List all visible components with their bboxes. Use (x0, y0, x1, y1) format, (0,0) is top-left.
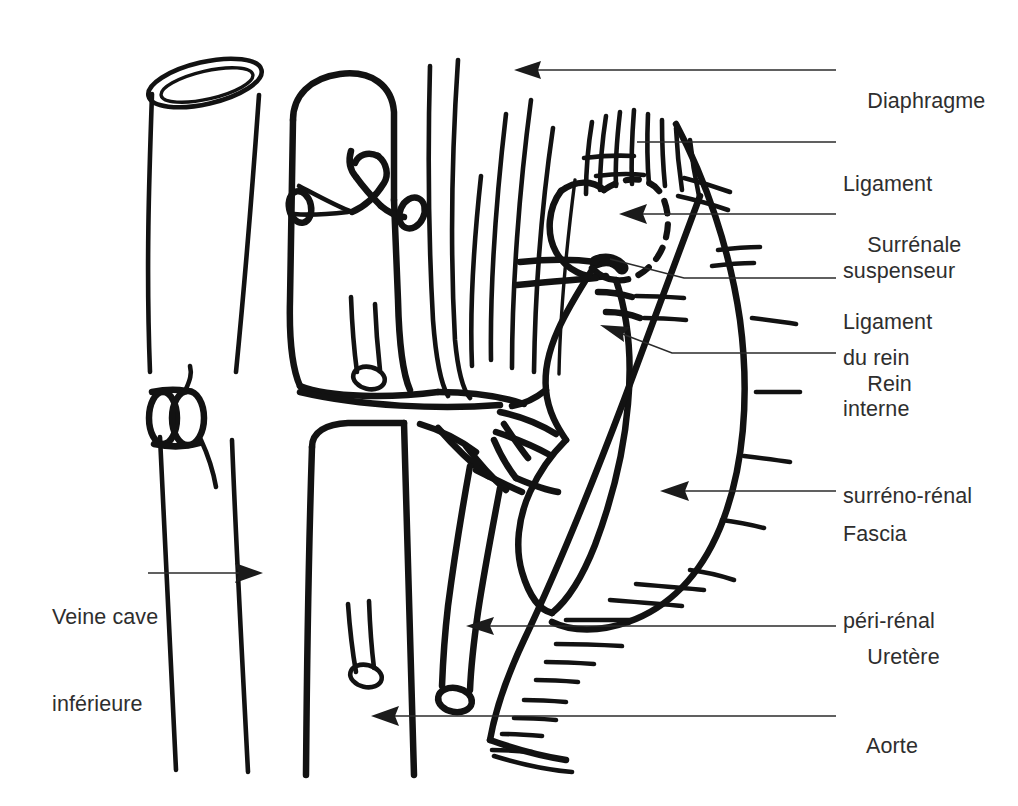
label-veine-cave-line-2: inférieure (52, 690, 158, 719)
leader-uretere (466, 617, 836, 635)
suspensory-ligament-hatching (584, 110, 699, 196)
label-uretere-line-1: Uretère (867, 645, 939, 669)
label-ligament-interne-line-1: Ligament (843, 308, 972, 337)
label-aorte: Aorte (843, 703, 918, 790)
diaphragm-fibres (300, 60, 575, 407)
label-aorte-line-1: Aorte (866, 734, 918, 758)
label-veine-cave-inferieure: Veine cave inférieure (52, 545, 158, 777)
label-diaphragme-line-1: Diaphragme (867, 89, 985, 113)
anatomy-figure: Diaphragme Ligament suspenseur du rein S… (0, 0, 1018, 806)
label-veine-cave-line-1: Veine cave (52, 603, 158, 632)
leader-fascia-peri-renal (660, 481, 836, 501)
label-rein: Rein (843, 341, 912, 428)
aorta-shape (286, 73, 438, 775)
vena-cava-shape (144, 49, 266, 772)
leader-surrenale (619, 204, 836, 224)
label-fascia-line-1: Fascia (843, 520, 935, 549)
label-ligament-suspenseur-line-1: Ligament (843, 170, 955, 199)
leader-rein (600, 325, 836, 353)
label-rein-line-1: Rein (867, 372, 912, 396)
ureter-shape (436, 466, 500, 715)
vena-cava-clip-detail (149, 366, 216, 487)
leader-diaphragme (514, 61, 836, 79)
label-uretere: Uretère (843, 614, 940, 701)
